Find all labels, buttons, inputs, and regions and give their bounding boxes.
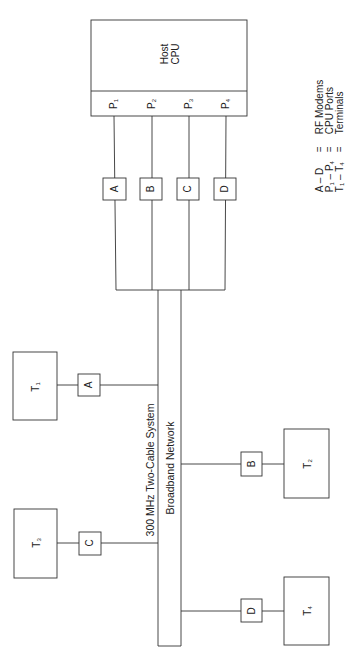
terminal-modem-c-label: C bbox=[85, 539, 95, 546]
host-modem-d-label: D bbox=[220, 185, 230, 192]
terminal-modem-d-label: D bbox=[247, 607, 257, 614]
terminal-t4-label: T4 bbox=[303, 606, 313, 615]
terminal-modem-a-label: A bbox=[84, 382, 94, 389]
bus-label-network: Broadband Network bbox=[165, 422, 176, 515]
port-label-p3: P3 bbox=[184, 99, 194, 109]
legend-row-terminals: T1 – T4 = Terminals bbox=[335, 80, 345, 192]
port-label-p2: P2 bbox=[147, 99, 157, 109]
terminal-t2-label: T2 bbox=[303, 459, 313, 468]
port-label-p4: P4 bbox=[221, 99, 231, 109]
legend: A – D = RF Modems P1 – P4 = CPU Ports T1… bbox=[315, 80, 345, 192]
port-label-p1: P1 bbox=[109, 99, 119, 109]
bus-label-system: 300 MHz Two-Cable System bbox=[145, 404, 156, 537]
terminal-t3-label: T3 bbox=[32, 538, 42, 547]
host-modem-a-label: A bbox=[110, 186, 120, 193]
terminal-modem-b-label: B bbox=[247, 461, 257, 468]
diagram-lines bbox=[0, 0, 358, 657]
host-modem-c-label: C bbox=[183, 185, 193, 192]
host-cpu-label: Host CPU bbox=[160, 43, 181, 64]
terminal-t1-label: T1 bbox=[31, 382, 41, 391]
host-modem-b-label: B bbox=[146, 186, 156, 193]
